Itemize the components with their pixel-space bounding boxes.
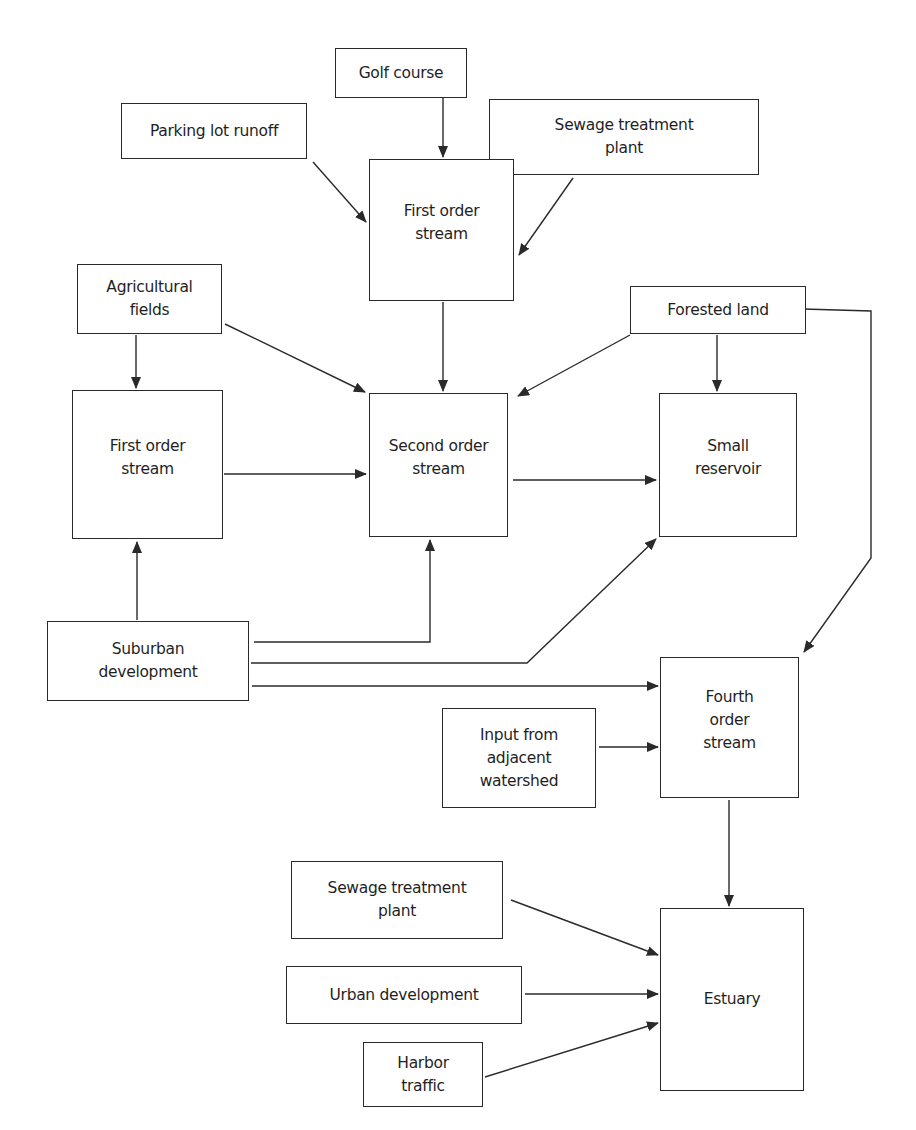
arrow-forest-to-fourth xyxy=(803,309,871,652)
node-input-adjacent-watershed: Input from adjacent watershed xyxy=(442,708,596,808)
node-label: Sewage treatment plant xyxy=(328,877,467,923)
node-urban-development: Urban development xyxy=(286,966,522,1024)
node-first-order-stream-top: First order stream xyxy=(369,159,514,301)
node-label: Harbor traffic xyxy=(397,1052,448,1098)
node-label: First order stream xyxy=(110,435,186,481)
node-small-reservoir: Small reservoir xyxy=(659,393,797,537)
arrow-agri-to-second xyxy=(225,324,365,392)
node-second-order-stream: Second order stream xyxy=(369,393,508,537)
node-label: First order stream xyxy=(404,200,480,246)
node-fourth-order-stream: Fourth order stream xyxy=(660,657,799,798)
node-label: Estuary xyxy=(704,988,761,1011)
node-first-order-stream-left: First order stream xyxy=(72,390,223,539)
arrow-suburban-to-second xyxy=(254,540,430,642)
node-label: Input from adjacent watershed xyxy=(480,724,559,793)
arrow-sewage-to-first-top xyxy=(519,178,573,255)
node-estuary: Estuary xyxy=(660,908,804,1091)
node-label: Second order stream xyxy=(389,435,489,481)
node-label: Parking lot runoff xyxy=(150,120,278,143)
node-sewage-plant-bottom: Sewage treatment plant xyxy=(291,861,503,939)
arrow-sewage-bottom-to-estuary xyxy=(511,900,658,955)
node-label: Suburban development xyxy=(99,638,198,684)
node-parking-lot-runoff: Parking lot runoff xyxy=(121,103,307,159)
node-label: Golf course xyxy=(359,62,444,85)
node-golf-course: Golf course xyxy=(335,48,467,98)
node-label: Agricultural fields xyxy=(106,276,192,322)
watershed-flow-diagram: Golf course Parking lot runoff Sewage tr… xyxy=(0,0,916,1130)
arrow-harbor-to-estuary xyxy=(485,1023,658,1077)
arrow-suburban-to-reservoir xyxy=(251,539,656,663)
node-label: Forested land xyxy=(667,299,768,322)
node-label: Small reservoir xyxy=(695,435,761,481)
node-suburban-development: Suburban development xyxy=(47,621,249,701)
node-sewage-plant-top: Sewage treatment plant xyxy=(489,99,759,175)
node-label: Fourth order stream xyxy=(703,686,756,755)
node-label: Sewage treatment plant xyxy=(555,114,694,160)
arrow-parking-to-first-top xyxy=(313,162,366,222)
node-harbor-traffic: Harbor traffic xyxy=(363,1042,483,1107)
node-forested-land: Forested land xyxy=(630,286,806,334)
node-label: Urban development xyxy=(330,984,479,1007)
node-agricultural-fields: Agricultural fields xyxy=(77,264,222,334)
arrow-forest-to-second xyxy=(518,335,630,396)
